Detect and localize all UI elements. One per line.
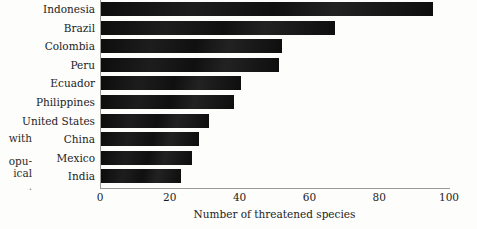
x-tick-100: 100 <box>439 190 459 204</box>
bar-ecuador <box>101 76 241 90</box>
threatened-species-bar-chart: IndonesiaBrazilColombiaPeruEcuadorPhilip… <box>0 0 477 229</box>
category-label-brazil: Brazil <box>64 21 95 35</box>
x-axis-title: Number of threatened species <box>100 208 449 220</box>
x-tick-40: 40 <box>233 190 246 204</box>
plot-area <box>100 0 449 188</box>
bar-peru <box>101 58 279 72</box>
bar-india <box>101 169 181 183</box>
figure-page: with opu- ical . IndonesiaBrazilColombia… <box>0 0 477 229</box>
category-label-mexico: Mexico <box>57 151 95 165</box>
category-label-united-states: United States <box>22 114 95 128</box>
category-label-philippines: Philippines <box>36 95 95 109</box>
category-label-indonesia: Indonesia <box>43 2 95 16</box>
bar-china <box>101 132 199 146</box>
bar-united-states <box>101 114 209 128</box>
x-axis-line <box>100 188 450 189</box>
bar-colombia <box>101 39 282 53</box>
category-label-china: China <box>64 132 95 146</box>
bar-mexico <box>101 151 192 165</box>
x-tick-80: 80 <box>373 190 386 204</box>
category-label-peru: Peru <box>70 58 95 72</box>
category-label-india: India <box>68 169 95 183</box>
category-label-colombia: Colombia <box>45 39 95 53</box>
category-label-ecuador: Ecuador <box>50 76 95 90</box>
x-tick-0: 0 <box>97 190 104 204</box>
bar-philippines <box>101 95 234 109</box>
x-axis-tick-labels: 020406080100 <box>100 190 460 206</box>
category-axis-labels: IndonesiaBrazilColombiaPeruEcuadorPhilip… <box>0 0 98 188</box>
x-tick-60: 60 <box>303 190 316 204</box>
bar-brazil <box>101 21 335 35</box>
bar-indonesia <box>101 2 433 16</box>
x-tick-20: 20 <box>163 190 176 204</box>
